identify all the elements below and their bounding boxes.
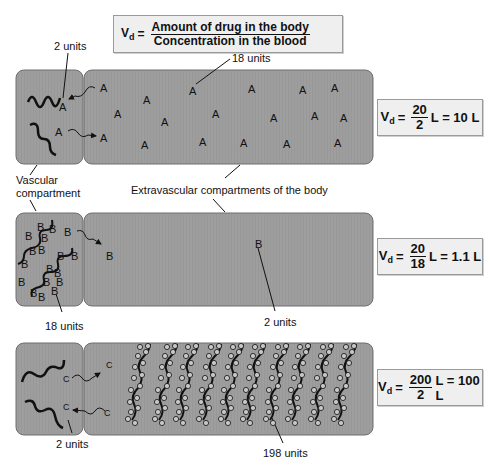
- drug-a: A: [189, 85, 196, 97]
- drug-b: B: [64, 226, 71, 238]
- drug-b: B: [106, 250, 113, 262]
- extravascular-compartment-a: [84, 70, 373, 164]
- drug-b: B: [57, 250, 64, 262]
- vd-formula-b: Vd = 2018 L = 1.1 L: [377, 238, 483, 275]
- drug-a: A: [199, 136, 206, 148]
- drug-b: B: [41, 232, 48, 244]
- drug-a: A: [311, 110, 318, 122]
- extravascular-compartment-b: [84, 213, 373, 306]
- extravascular-compartment-label: Extravascular compartments of the body: [131, 184, 328, 196]
- drug-a: A: [161, 116, 168, 128]
- vascular-units-label-b: 18 units: [45, 320, 84, 332]
- drug-b: B: [29, 245, 36, 257]
- drug-a: A: [248, 83, 255, 95]
- drug-b: B: [30, 287, 37, 299]
- vd-result-c: L = 100 L: [435, 373, 482, 403]
- drug-a: A: [283, 138, 290, 150]
- drug-b: B: [38, 244, 45, 256]
- extravascular-units-label-c: 198 units: [263, 447, 308, 459]
- drug-b: B: [43, 276, 50, 288]
- drug-a: A: [141, 139, 148, 151]
- vascular-compartment-label: Vascular: [16, 174, 58, 186]
- vascular-units-label-c: 2 units: [56, 438, 88, 450]
- drug-c: C: [106, 360, 113, 370]
- panel-c: [16, 343, 373, 443]
- drug-b: B: [21, 258, 28, 270]
- drug-a: A: [100, 132, 107, 144]
- extravascular-units-label-b: 2 units: [264, 316, 296, 328]
- vascular-compartment-label-2: compartment: [16, 187, 80, 199]
- drug-a: A: [331, 82, 338, 94]
- drug-a: A: [55, 126, 62, 138]
- drug-b: B: [51, 285, 58, 297]
- panel-a: [16, 53, 373, 178]
- drug-c: C: [63, 402, 70, 412]
- drug-a: A: [59, 101, 66, 113]
- drug-b: B: [49, 223, 56, 235]
- drug-a: A: [334, 137, 341, 149]
- vascular-compartment-c: [16, 343, 83, 435]
- drug-b: B: [255, 238, 262, 250]
- drug-a: A: [240, 137, 247, 149]
- vd-formula-c: Vd = 2002 L = 100 L: [377, 369, 483, 406]
- drug-a: A: [143, 94, 150, 106]
- drug-b: B: [46, 263, 53, 275]
- drug-a: A: [100, 82, 107, 94]
- vascular-units-label-a: 2 units: [54, 40, 86, 52]
- drug-b: B: [18, 276, 25, 288]
- drug-b: B: [25, 230, 32, 242]
- vd-result-a: L = 10 L: [431, 110, 480, 125]
- drug-a: A: [340, 112, 347, 124]
- vd-result-b: L = 1.1 L: [429, 249, 481, 264]
- drug-b: B: [38, 291, 45, 303]
- extravascular-units-label-a: 18 units: [232, 52, 271, 64]
- drug-a: A: [114, 108, 121, 120]
- drug-a: A: [270, 112, 277, 124]
- drug-a: A: [212, 108, 219, 120]
- panel-b: [16, 199, 373, 312]
- drug-b: B: [71, 250, 78, 262]
- vd-formula-a: Vd = 202 L = 10 L: [377, 99, 483, 136]
- drug-a: A: [299, 84, 306, 96]
- drug-c: C: [104, 408, 111, 418]
- drug-c: C: [63, 374, 70, 384]
